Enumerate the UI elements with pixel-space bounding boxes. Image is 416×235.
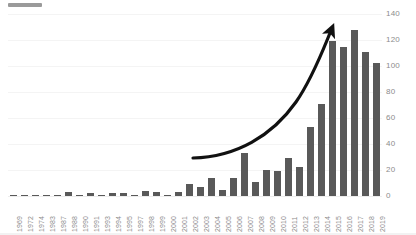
bar: [54, 195, 61, 196]
bar: [10, 195, 17, 196]
x-axis-tick-label: 2016: [346, 216, 353, 232]
x-axis-tick-label: 1983: [49, 216, 56, 232]
bar: [120, 193, 127, 196]
bar: [109, 193, 116, 196]
bar: [21, 195, 28, 196]
bar: [65, 192, 72, 196]
x-axis-tick-label: 2010: [280, 216, 287, 232]
x-axis-tick-label: 1994: [115, 216, 122, 232]
plot-area: [8, 14, 382, 196]
bar: [263, 170, 270, 196]
y-axis-tick-label: 40: [386, 140, 412, 148]
bar: [362, 52, 369, 196]
x-axis-tick-label: 1991: [93, 216, 100, 232]
bar: [208, 178, 215, 196]
bar: [373, 63, 380, 196]
y-axis-tick-label: 140: [386, 10, 412, 18]
bar: [76, 195, 83, 196]
bar: [340, 47, 347, 197]
x-axis-tick-label: 1988: [71, 216, 78, 232]
bar: [164, 195, 171, 196]
x-axis-tick-label: 2015: [335, 216, 342, 232]
x-axis-tick-label: 2009: [269, 216, 276, 232]
x-axis-tick-label: 2001: [181, 216, 188, 232]
x-axis-tick-label: 2007: [247, 216, 254, 232]
bar: [98, 195, 105, 196]
x-axis-tick-label: 2013: [313, 216, 320, 232]
bar: [87, 193, 94, 196]
y-axis-tick-label: 80: [386, 88, 412, 96]
x-axis-tick-label: 2014: [324, 216, 331, 232]
bar: [307, 127, 314, 196]
redacted-title-bar: [8, 3, 42, 7]
bar: [131, 195, 138, 196]
x-axis-tick-label: 2019: [379, 216, 386, 232]
x-axis-tick-label: 2002: [192, 216, 199, 232]
x-axis-tick-label: 1974: [38, 216, 45, 232]
bar: [351, 30, 358, 196]
bar: [32, 195, 39, 196]
bar: [153, 192, 160, 196]
y-axis-tick-label: 100: [386, 62, 412, 70]
bar: [296, 167, 303, 196]
bar: [252, 182, 259, 196]
bar-series: [8, 14, 382, 196]
bar: [318, 104, 325, 196]
y-axis: 020406080100120140: [386, 0, 416, 235]
bar: [197, 187, 204, 196]
y-axis-tick-label: 20: [386, 166, 412, 174]
x-axis-tick-label: 2012: [302, 216, 309, 232]
bar: [43, 195, 50, 196]
bar: [142, 191, 149, 196]
y-axis-tick-label: 120: [386, 36, 412, 44]
x-axis-tick-label: 1987: [60, 216, 67, 232]
bar: [219, 190, 226, 197]
x-axis-tick-label: 2005: [225, 216, 232, 232]
bar: [186, 184, 193, 196]
x-axis-tick-label: 1972: [27, 216, 34, 232]
y-axis-tick-label: 60: [386, 114, 412, 122]
bar: [285, 158, 292, 196]
bottom-rule: [0, 233, 416, 235]
bar: [329, 41, 336, 196]
x-axis-tick-label: 2018: [368, 216, 375, 232]
x-axis-tick-label: 2011: [291, 217, 298, 232]
bar: [175, 192, 182, 196]
gridline: [8, 196, 382, 197]
x-axis-tick-label: 2006: [236, 216, 243, 232]
x-axis-tick-label: 2004: [214, 216, 221, 232]
x-axis-tick-label: 1995: [126, 216, 133, 232]
x-axis-tick-label: 2008: [258, 216, 265, 232]
x-axis-tick-label: 1969: [16, 216, 23, 232]
x-axis-tick-label: 1998: [148, 216, 155, 232]
x-axis: 1969197219741983198719881990199119931994…: [8, 198, 382, 235]
x-axis-tick-label: 2000: [170, 216, 177, 232]
x-axis-tick-label: 1990: [82, 216, 89, 232]
x-axis-tick-label: 1997: [137, 216, 144, 232]
x-axis-tick-label: 2003: [203, 216, 210, 232]
x-axis-tick-label: 1993: [104, 216, 111, 232]
bar: [230, 178, 237, 196]
x-axis-tick-label: 2017: [357, 216, 364, 232]
x-axis-tick-label: 1999: [159, 216, 166, 232]
bar: [274, 171, 281, 196]
bar: [241, 153, 248, 196]
y-axis-tick-label: 0: [386, 192, 412, 200]
chart-container: 020406080100120140 196919721974198319871…: [0, 0, 416, 235]
